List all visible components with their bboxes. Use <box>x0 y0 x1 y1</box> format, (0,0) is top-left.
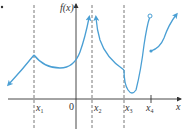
curve-from-asymptote <box>96 18 124 70</box>
x-axis-label: x <box>175 101 181 112</box>
open-circle <box>148 14 152 18</box>
tick-label-x3: x3 <box>124 102 132 114</box>
bullet-dot <box>1 6 3 8</box>
y-axis-label: f(x) <box>60 2 75 14</box>
origin-label: 0 <box>69 101 74 112</box>
tick-label-x2: x2 <box>93 102 101 114</box>
closed-dot <box>149 49 152 52</box>
curve-dip-to-x4 <box>124 18 150 93</box>
curve-right-piece <box>151 15 176 51</box>
function-graph: f(x) x 0 x1 x2 x3 x4 <box>0 0 183 139</box>
tick-label-x4: x4 <box>145 102 153 114</box>
tick-label-x1: x1 <box>35 102 43 114</box>
curve-to-asymptote <box>34 18 89 68</box>
curve-left-tail <box>9 55 34 84</box>
